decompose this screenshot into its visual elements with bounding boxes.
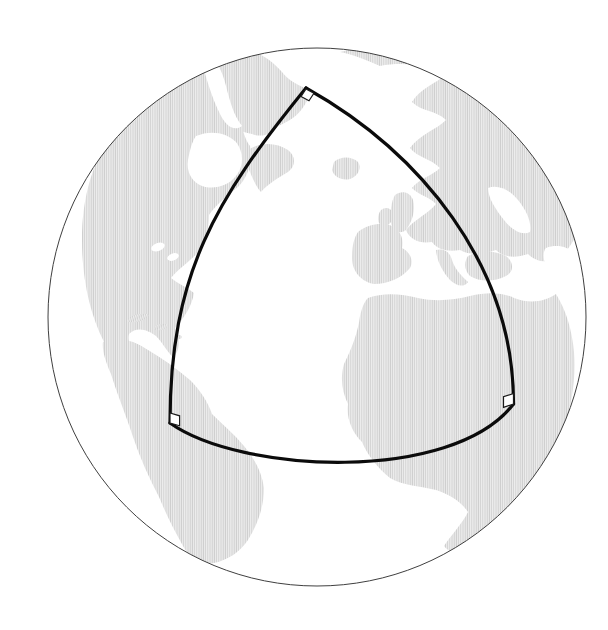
figure-spherical-triangle-globe — [0, 0, 608, 630]
globe-figure-canvas — [0, 0, 608, 630]
land-balkans-anatolia — [465, 252, 512, 281]
right-angle-marker-southwest — [170, 413, 180, 426]
